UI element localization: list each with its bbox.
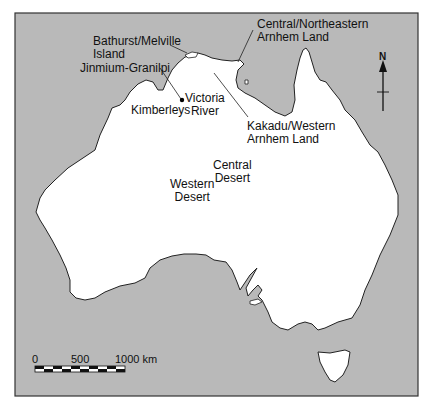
scale-tick-0: 0 xyxy=(32,353,38,366)
label-kimberleys: Kimberleys xyxy=(131,104,190,117)
label-western-desert: Western Desert xyxy=(170,178,214,204)
label-bathurst-melville: Bathurst/Melville Island xyxy=(93,35,181,61)
scale-tick-500: 500 xyxy=(71,353,89,366)
groote-eylandt xyxy=(245,80,248,84)
map-canvas xyxy=(0,0,428,408)
label-central-northeastern-arnhem-land: Central/Northeastern Arnhem Land xyxy=(257,18,368,44)
scale-bar xyxy=(35,366,125,372)
north-arrow-label: N xyxy=(379,50,386,63)
label-victoria-river: Victoria River xyxy=(185,92,225,118)
label-central-desert: Central Desert xyxy=(213,159,252,185)
label-jinmium-granilpi: Jinmium-Granilpi xyxy=(80,62,170,75)
scale-tick-1000: 1000 km xyxy=(115,353,157,366)
jinmium-site-dot xyxy=(180,98,184,102)
label-kakadu-western-arnhem-land: Kakadu/Western Arnhem Land xyxy=(247,120,336,146)
